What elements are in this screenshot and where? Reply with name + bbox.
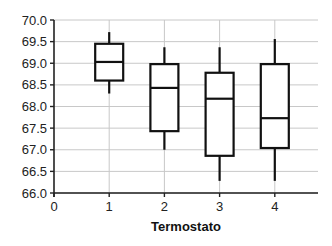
y-tick-label: 66.0 (22, 186, 47, 201)
x-tick-labels: 01234 (50, 193, 278, 214)
iqr-box (206, 73, 234, 156)
box-3 (206, 47, 234, 181)
x-tick-label: 3 (216, 199, 223, 214)
box-plot-chart: 66.066.567.067.568.068.569.069.570.0 012… (0, 0, 332, 246)
x-tick-label: 4 (271, 199, 278, 214)
y-tick-labels: 66.066.567.067.568.068.569.069.570.0 (22, 13, 54, 201)
iqr-box (261, 64, 289, 148)
box-2 (150, 47, 178, 150)
x-tick-label: 2 (161, 199, 168, 214)
y-tick-label: 70.0 (22, 13, 47, 28)
y-tick-label: 67.5 (22, 121, 47, 136)
iqr-box (150, 64, 178, 131)
y-tick-label: 66.5 (22, 164, 47, 179)
x-axis-label: Termostato (151, 219, 221, 234)
x-tick-label: 1 (106, 199, 113, 214)
y-tick-label: 69.5 (22, 34, 47, 49)
y-tick-label: 69.0 (22, 56, 47, 71)
y-tick-label: 68.0 (22, 99, 47, 114)
x-tick-label: 0 (50, 199, 57, 214)
box-4 (261, 39, 289, 181)
y-tick-label: 68.5 (22, 77, 47, 92)
y-tick-label: 67.0 (22, 142, 47, 157)
